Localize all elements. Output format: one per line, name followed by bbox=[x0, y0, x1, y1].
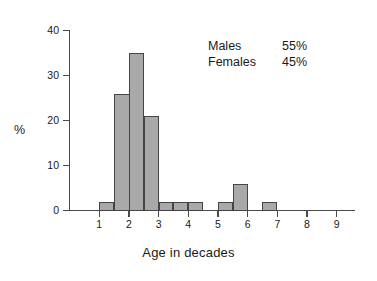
annotation-row: Males55% bbox=[208, 39, 322, 55]
y-axis-line bbox=[69, 30, 70, 211]
x-tick-1 bbox=[99, 211, 100, 217]
x-tick-5 bbox=[217, 211, 218, 217]
y-tick-40 bbox=[63, 30, 69, 31]
bar-3.0-3.5 bbox=[159, 202, 174, 211]
y-tick-30 bbox=[63, 75, 69, 76]
y-tick-20 bbox=[63, 120, 69, 121]
histogram-chart: % Age in decades 010203040 123456789 Mal… bbox=[0, 0, 377, 281]
bar-5.0-5.5 bbox=[218, 202, 233, 211]
bar-4.0-4.5 bbox=[188, 202, 203, 211]
bar-2.5-3.0 bbox=[144, 116, 159, 211]
y-tick-label-30: 30 bbox=[33, 70, 59, 80]
annotation-value: 55% bbox=[282, 39, 322, 55]
x-tick-label-9: 9 bbox=[326, 219, 348, 230]
annotation-label: Males bbox=[208, 39, 282, 55]
y-tick-label-10: 10 bbox=[33, 160, 59, 170]
annotation-row: Females45% bbox=[208, 55, 322, 71]
annotation-label: Females bbox=[208, 55, 282, 71]
y-tick-10 bbox=[63, 165, 69, 166]
x-tick-label-7: 7 bbox=[266, 219, 288, 230]
x-tick-6 bbox=[247, 211, 248, 217]
x-axis-title: Age in decades bbox=[0, 245, 377, 260]
x-tick-label-4: 4 bbox=[177, 219, 199, 230]
y-tick-label-0: 0 bbox=[33, 205, 59, 215]
annotation-value: 45% bbox=[282, 55, 322, 71]
bar-1.0-1.5 bbox=[99, 202, 114, 211]
y-tick-label-40: 40 bbox=[33, 25, 59, 35]
x-tick-label-1: 1 bbox=[88, 219, 110, 230]
x-tick-label-3: 3 bbox=[148, 219, 170, 230]
legend-annotation: Males55%Females45% bbox=[208, 39, 322, 70]
x-tick-2 bbox=[128, 211, 129, 217]
y-tick-0 bbox=[63, 210, 69, 211]
bar-6.5-7.0 bbox=[262, 202, 277, 211]
x-tick-3 bbox=[158, 211, 159, 217]
x-tick-4 bbox=[188, 211, 189, 217]
x-tick-label-6: 6 bbox=[237, 219, 259, 230]
bar-5.5-6.0 bbox=[233, 184, 248, 211]
x-tick-label-5: 5 bbox=[207, 219, 229, 230]
x-tick-7 bbox=[277, 211, 278, 217]
bar-3.5-4.0 bbox=[173, 202, 188, 211]
x-tick-9 bbox=[336, 211, 337, 217]
x-tick-label-2: 2 bbox=[118, 219, 140, 230]
x-tick-label-8: 8 bbox=[296, 219, 318, 230]
x-tick-8 bbox=[306, 211, 307, 217]
y-axis-title: % bbox=[14, 124, 25, 137]
y-tick-label-20: 20 bbox=[33, 115, 59, 125]
bar-2.0-2.5 bbox=[129, 53, 144, 211]
